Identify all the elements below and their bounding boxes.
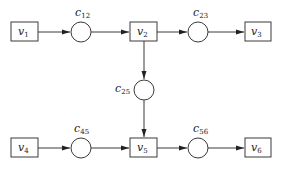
node-v4: v4 (11, 138, 38, 157)
node-v3: v3 (245, 22, 271, 41)
connector-c56: c56 (188, 122, 209, 158)
node-v6: v6 (245, 138, 271, 157)
connector-c25: c25 (115, 80, 154, 100)
connector-c12: c12 (71, 6, 91, 42)
node-v1: v1 (11, 22, 38, 41)
svg-text:c25: c25 (115, 82, 130, 96)
svg-text:c23: c23 (193, 6, 208, 20)
svg-text:c12: c12 (75, 6, 90, 20)
node-v2: v2 (130, 22, 157, 41)
flow-diagram: v1 v2 v3 v4 v5 v6 c12 c23 c25 c45 c56 (0, 0, 285, 169)
connector-c45: c45 (71, 122, 91, 158)
node-v5: v5 (130, 138, 157, 157)
svg-text:c56: c56 (193, 122, 209, 136)
connector-c23: c23 (188, 6, 208, 42)
svg-text:c45: c45 (74, 122, 89, 136)
